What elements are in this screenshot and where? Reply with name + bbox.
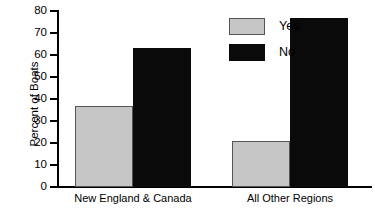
bar-chart: Percent of Boats 80706050403020100 New E… bbox=[0, 0, 375, 223]
legend-label-no: No bbox=[279, 44, 295, 61]
y-axis-tick bbox=[50, 120, 58, 122]
bar-no-group-1 bbox=[290, 18, 348, 187]
y-axis-tick bbox=[50, 54, 58, 56]
y-axis-tick bbox=[50, 186, 58, 188]
bar-yes-group-1 bbox=[232, 141, 290, 187]
y-axis-tick bbox=[50, 98, 58, 100]
bar-yes-group-0 bbox=[75, 106, 133, 187]
y-axis-tick bbox=[50, 164, 58, 166]
y-axis-tick-label: 10 bbox=[7, 159, 47, 171]
y-axis-tick-label: 20 bbox=[7, 137, 47, 149]
legend-swatch-yes-icon bbox=[229, 18, 265, 35]
y-axis-tick bbox=[50, 32, 58, 34]
y-axis-tick bbox=[50, 76, 58, 78]
y-axis-tick-label: 70 bbox=[7, 27, 47, 39]
x-axis-label-all-other-regions: All Other Regions bbox=[190, 192, 375, 205]
y-axis-tick-label: 40 bbox=[7, 93, 47, 105]
legend-label-yes: Yes bbox=[279, 18, 299, 35]
y-axis-tick-label: 80 bbox=[7, 5, 47, 17]
bar-no-group-0 bbox=[133, 48, 191, 187]
y-axis-tick-label: 0 bbox=[7, 181, 47, 193]
legend-swatch-no-icon bbox=[229, 44, 265, 61]
y-axis-tick-label: 60 bbox=[7, 49, 47, 61]
y-axis-tick bbox=[50, 142, 58, 144]
y-axis-tick-label: 30 bbox=[7, 115, 47, 127]
y-axis-tick-label: 50 bbox=[7, 71, 47, 83]
y-axis-tick bbox=[50, 10, 58, 12]
